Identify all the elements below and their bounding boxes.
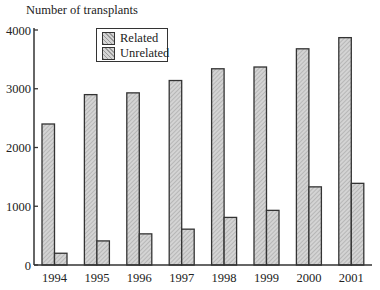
x-tick-label: 1994 [42, 271, 68, 285]
y-axis-label: Number of transplants [26, 3, 138, 18]
bar-chart: 1994199519961997199819992000200101000200… [0, 0, 380, 290]
y-tick-label: 3000 [6, 82, 31, 96]
x-tick-label: 1998 [212, 271, 237, 285]
x-tick-label: 1995 [84, 271, 109, 285]
bar-related-1998 [212, 69, 225, 265]
legend-item-unrelated: Unrelated [102, 46, 169, 60]
bar-unrelated-2000 [309, 187, 322, 265]
legend-item-related: Related [102, 31, 158, 45]
legend-swatch-unrelated [102, 47, 115, 60]
x-tick-label: 1999 [254, 271, 279, 285]
bar-related-2001 [339, 38, 352, 265]
bar-related-2000 [296, 49, 309, 265]
y-tick-label: 4000 [6, 24, 31, 38]
bar-related-1996 [127, 93, 140, 265]
x-tick-label: 2001 [339, 271, 364, 285]
x-tick-label: 2000 [296, 271, 321, 285]
legend-label-related: Related [120, 31, 158, 46]
legend-label-unrelated: Unrelated [120, 46, 169, 61]
bar-unrelated-1999 [267, 210, 280, 265]
x-tick-label: 1997 [169, 271, 194, 285]
y-tick-label: 2000 [6, 141, 31, 155]
bars-group [42, 38, 364, 265]
bar-unrelated-1996 [139, 234, 152, 265]
bar-unrelated-1994 [55, 253, 68, 265]
y-tick-label: 0 [25, 259, 31, 273]
legend-swatch-related [102, 32, 115, 45]
bar-related-1999 [254, 67, 267, 265]
bar-unrelated-2001 [351, 183, 364, 265]
bar-unrelated-1995 [97, 241, 110, 265]
y-tick-label: 1000 [6, 200, 31, 214]
bar-unrelated-1997 [182, 229, 195, 265]
x-tick-label: 1996 [127, 271, 152, 285]
bar-related-1997 [169, 81, 182, 265]
bar-related-1995 [84, 95, 97, 265]
bar-related-1994 [42, 124, 55, 265]
bar-unrelated-1998 [224, 217, 237, 265]
legend: Related Unrelated [96, 28, 168, 62]
